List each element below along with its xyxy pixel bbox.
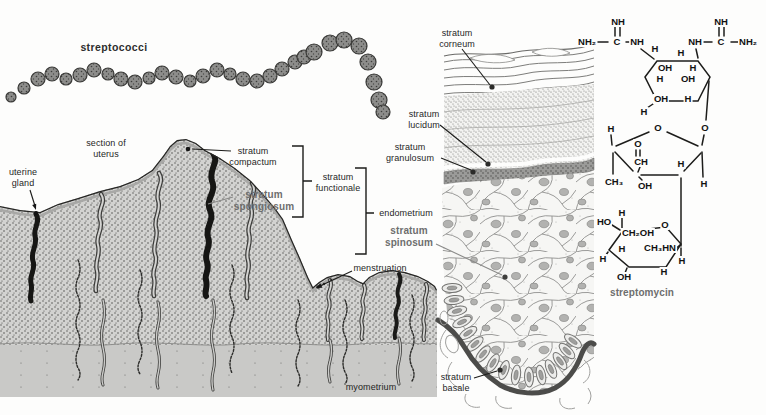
chem-atom-label: H bbox=[677, 159, 686, 169]
illustration-plate: streptococci section of uterus uterine g… bbox=[0, 0, 766, 415]
chem-atom-label: CH₂OH bbox=[621, 228, 655, 238]
stratum-compactum-label: stratum compactum bbox=[229, 146, 276, 167]
stratum-granulosum-label: stratum granulosum bbox=[386, 142, 434, 163]
streptococci-chain bbox=[6, 32, 390, 119]
stratum-functionale-label: stratum functionale bbox=[316, 172, 361, 193]
chem-atom-label: O bbox=[633, 139, 642, 149]
chem-atom-label: H bbox=[618, 244, 627, 254]
streptomycin-label: streptomycin bbox=[610, 287, 674, 299]
chem-atom-label: H bbox=[678, 256, 687, 266]
stratum-spinosum-label: stratum spinosum bbox=[385, 225, 433, 248]
arrowhead-uterine-gland bbox=[32, 204, 36, 210]
chem-atom-label: H bbox=[684, 94, 693, 104]
chem-atom-label: CH₃ bbox=[604, 177, 624, 187]
chem-atom-label: HO bbox=[596, 217, 612, 227]
chem-atom-label: NH₂ bbox=[738, 37, 758, 47]
chem-atom-label: NH bbox=[687, 37, 703, 47]
chem-atom-label: NH₂ bbox=[577, 37, 597, 47]
chem-atom-label: NH bbox=[713, 17, 729, 27]
bracket-stratum-functionale bbox=[292, 146, 312, 217]
chem-atom-label: O bbox=[700, 123, 709, 133]
chem-atom-label: H bbox=[656, 74, 665, 84]
chem-atom-label: OH bbox=[657, 63, 673, 73]
uterine-gland-label: uterine gland bbox=[9, 167, 37, 188]
menstruation-label: menstruation bbox=[353, 263, 406, 274]
chem-atom-label: NH bbox=[610, 17, 626, 27]
stratum-spongiosum-label: stratum spongiosum bbox=[234, 189, 294, 212]
stratum-corneum-label: stratum corneum bbox=[439, 28, 475, 49]
section-of-uterus-label: section of uterus bbox=[86, 138, 126, 159]
myometrium-label: myometrium bbox=[346, 382, 397, 393]
chem-atom-label: H bbox=[607, 124, 616, 134]
chem-atom-label: C bbox=[613, 37, 622, 47]
chem-atom-label: CH bbox=[633, 157, 649, 167]
chem-atom-label: OH bbox=[616, 272, 632, 282]
chem-atom-label: H bbox=[660, 267, 669, 277]
chem-atom-label: NH bbox=[629, 37, 645, 47]
chem-atom-label: H bbox=[689, 63, 698, 73]
leader-uterine-gland bbox=[30, 190, 35, 206]
chem-atom-label: H bbox=[640, 107, 649, 117]
chem-atom-label: O bbox=[653, 123, 662, 133]
endometrium-label: endometrium bbox=[379, 208, 433, 219]
chem-atom-label: H bbox=[677, 48, 686, 58]
chem-atom-label: OH bbox=[653, 94, 669, 104]
chem-atom-label: CH₃HN bbox=[643, 243, 677, 253]
chem-atom-label: C bbox=[717, 37, 726, 47]
streptococci-label: streptococci bbox=[80, 42, 147, 53]
chem-atom-label: H bbox=[618, 208, 627, 218]
chem-atom-label: H bbox=[651, 44, 660, 54]
chem-atom-label: OH bbox=[637, 181, 653, 191]
chem-atom-label: O bbox=[660, 220, 669, 230]
stratum-lucidum-label: stratum lucidum bbox=[408, 109, 440, 130]
chem-atom-label: OH bbox=[680, 74, 696, 84]
skin-illustration bbox=[438, 44, 594, 409]
chem-atom-label: H bbox=[700, 179, 709, 189]
stratum-basale-label: stratum basale bbox=[441, 372, 472, 393]
stratum-spinosum-cells bbox=[442, 172, 594, 396]
chem-atom-label: H bbox=[599, 254, 608, 264]
